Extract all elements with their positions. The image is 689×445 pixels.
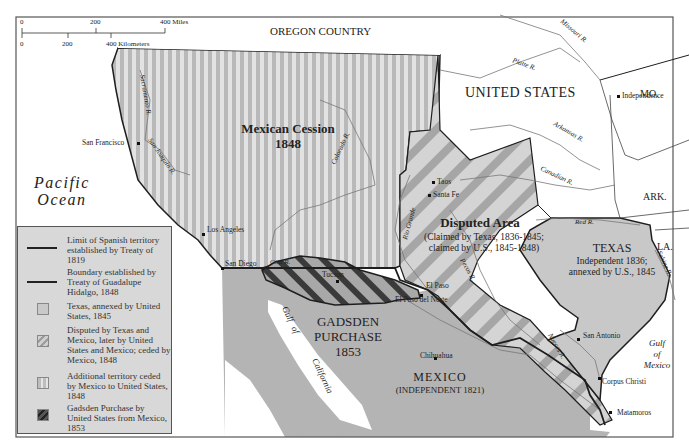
label-oregon-country: OREGON COUNTRY: [270, 25, 371, 37]
texas-swatch-icon: [37, 303, 49, 315]
svg-text:Santa Fe: Santa Fe: [433, 190, 460, 199]
boundary-line-icon: [27, 281, 57, 283]
svg-text:400 Miles: 400 Miles: [160, 18, 188, 26]
label-gadsden-year: 1853: [335, 344, 361, 359]
label-united-states: UNITED STATES: [465, 85, 576, 100]
gadsden-swatch-icon: [37, 409, 49, 421]
disputed-area-note-1: (Claimed by Texas, 1836-1845;: [424, 232, 544, 243]
disputed-swatch-icon: [37, 335, 49, 347]
label-gulf: Gulf: [649, 338, 667, 348]
svg-text:Taos: Taos: [437, 177, 451, 186]
svg-text:San Diego: San Diego: [225, 259, 257, 268]
svg-text:Red R.: Red R.: [574, 218, 594, 226]
svg-text:0: 0: [20, 18, 24, 26]
label-texas: TEXAS: [593, 241, 632, 255]
svg-text:Chihuahua: Chihuahua: [420, 351, 453, 360]
label-gadsden-2: PURCHASE: [314, 329, 382, 344]
svg-text:El Paso: El Paso: [426, 281, 449, 290]
cession-swatch-icon: [37, 377, 49, 389]
label-disputed-area: Disputed Area: [440, 215, 520, 230]
label-gadsden: GADSDEN: [317, 314, 380, 329]
boundary-line-icon: [27, 247, 57, 249]
svg-text:San Francisco: San Francisco: [82, 138, 125, 147]
texas-note-1: Independent 1836;: [577, 256, 648, 266]
svg-text:Corpus Christi: Corpus Christi: [602, 377, 646, 386]
disputed-area-note-2: claimed by U.S., 1845-1848): [429, 243, 539, 254]
label-mexico-gulf: Mexico: [643, 360, 671, 370]
map-legend: Limit of Spanish territory established b…: [17, 226, 172, 434]
svg-text:El Paso del Norte: El Paso del Norte: [395, 295, 448, 304]
svg-text:Tucson: Tucson: [322, 270, 344, 279]
label-mexican-cession-year: 1848: [275, 136, 302, 151]
label-pacific: Pacific: [33, 174, 90, 192]
texas-note-2: annexed by U.S., 1845: [569, 267, 656, 277]
svg-text:Gila R.: Gila R.: [270, 258, 290, 266]
svg-text:Los Angeles: Los Angeles: [207, 225, 244, 234]
label-mexico: MEXICO: [413, 370, 466, 384]
svg-text:San Antonio: San Antonio: [583, 331, 621, 340]
svg-text:0: 0: [20, 40, 24, 48]
svg-text:200: 200: [62, 40, 73, 48]
label-mexico-sub: (INDEPENDENT 1821): [396, 385, 485, 395]
label-ocean: Ocean: [37, 191, 86, 208]
svg-text:Independence: Independence: [622, 91, 664, 100]
label-mexican-cession: Mexican Cession: [241, 121, 335, 136]
label-ark: ARK.: [643, 191, 667, 202]
svg-text:Matamoros: Matamoros: [617, 408, 651, 417]
svg-text:200: 200: [90, 18, 101, 26]
svg-text:400 Kilometers: 400 Kilometers: [106, 40, 150, 48]
